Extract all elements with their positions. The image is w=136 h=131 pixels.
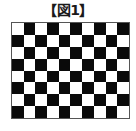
dark-square xyxy=(82,106,94,118)
dark-square xyxy=(94,47,106,59)
dark-square xyxy=(70,94,82,106)
dark-square xyxy=(59,35,71,47)
light-square xyxy=(59,23,71,35)
light-square xyxy=(47,59,59,71)
light-square xyxy=(12,23,24,35)
light-square xyxy=(82,71,94,83)
light-square xyxy=(59,71,71,83)
light-square xyxy=(47,35,59,47)
dark-square xyxy=(70,71,82,83)
dark-square xyxy=(106,59,118,71)
light-square xyxy=(70,59,82,71)
dark-square xyxy=(12,59,24,71)
dark-square xyxy=(59,59,71,71)
dark-square xyxy=(24,47,36,59)
light-square xyxy=(35,47,47,59)
light-square xyxy=(35,94,47,106)
dark-square xyxy=(82,82,94,94)
figure-title: 【図1】 xyxy=(0,2,136,18)
light-square xyxy=(82,94,94,106)
light-square xyxy=(12,94,24,106)
light-square xyxy=(82,23,94,35)
dark-square xyxy=(106,82,118,94)
light-square xyxy=(24,106,36,118)
dark-square xyxy=(117,47,129,59)
light-square xyxy=(106,71,118,83)
light-square xyxy=(106,47,118,59)
checkerboard-grid xyxy=(11,22,130,119)
light-square xyxy=(70,35,82,47)
dark-square xyxy=(94,94,106,106)
light-square xyxy=(47,82,59,94)
dark-square xyxy=(82,59,94,71)
dark-square xyxy=(70,47,82,59)
light-square xyxy=(70,106,82,118)
light-square xyxy=(35,23,47,35)
dark-square xyxy=(35,82,47,94)
light-square xyxy=(106,94,118,106)
light-square xyxy=(59,94,71,106)
light-square xyxy=(117,106,129,118)
dark-square xyxy=(82,35,94,47)
light-square xyxy=(94,35,106,47)
light-square xyxy=(117,59,129,71)
dark-square xyxy=(47,23,59,35)
dark-square xyxy=(12,106,24,118)
light-square xyxy=(106,23,118,35)
dark-square xyxy=(12,82,24,94)
dark-square xyxy=(35,35,47,47)
dark-square xyxy=(24,94,36,106)
dark-square xyxy=(117,23,129,35)
light-square xyxy=(82,47,94,59)
light-square xyxy=(59,47,71,59)
dark-square xyxy=(24,71,36,83)
light-square xyxy=(94,59,106,71)
dark-square xyxy=(117,94,129,106)
dark-square xyxy=(35,106,47,118)
dark-square xyxy=(47,94,59,106)
light-square xyxy=(24,35,36,47)
light-square xyxy=(24,59,36,71)
dark-square xyxy=(24,23,36,35)
light-square xyxy=(117,82,129,94)
light-square xyxy=(117,35,129,47)
dark-square xyxy=(59,82,71,94)
dark-square xyxy=(94,71,106,83)
dark-square xyxy=(59,106,71,118)
light-square xyxy=(12,71,24,83)
dark-square xyxy=(35,59,47,71)
light-square xyxy=(94,106,106,118)
light-square xyxy=(24,82,36,94)
light-square xyxy=(35,71,47,83)
dark-square xyxy=(106,106,118,118)
light-square xyxy=(70,82,82,94)
light-square xyxy=(94,82,106,94)
light-square xyxy=(47,106,59,118)
dark-square xyxy=(12,35,24,47)
dark-square xyxy=(117,71,129,83)
dark-square xyxy=(47,47,59,59)
dark-square xyxy=(106,35,118,47)
dark-square xyxy=(94,23,106,35)
light-square xyxy=(12,47,24,59)
dark-square xyxy=(70,23,82,35)
dark-square xyxy=(47,71,59,83)
